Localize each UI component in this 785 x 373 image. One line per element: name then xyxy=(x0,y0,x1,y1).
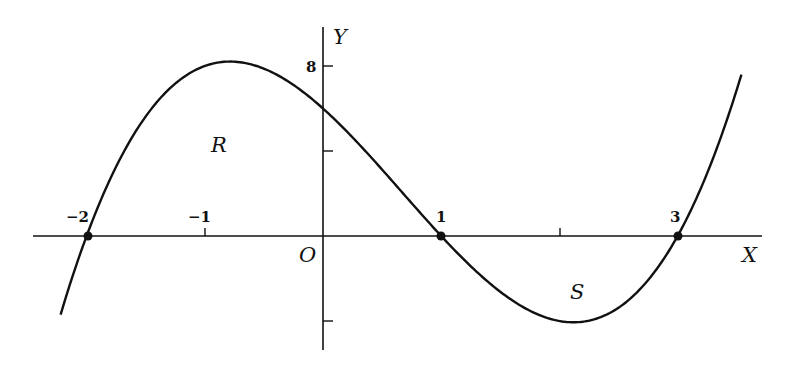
x-tick-label-1: 1 xyxy=(436,208,446,226)
x-tick-label-3: 3 xyxy=(670,208,680,226)
cubic-curve xyxy=(61,62,742,323)
region-label-s: S xyxy=(570,280,584,304)
region-label-r: R xyxy=(210,133,227,157)
cubic-graph: −2 −1 1 3 8 Y X O R S xyxy=(0,0,785,373)
origin-label: O xyxy=(299,243,316,267)
root-point-neg2 xyxy=(84,232,93,241)
x-tick-label-neg1: −1 xyxy=(188,208,211,226)
x-tick-label-neg2: −2 xyxy=(66,208,89,226)
root-point-3 xyxy=(674,232,683,241)
y-tick-label-8: 8 xyxy=(306,58,316,76)
root-point-1 xyxy=(437,232,446,241)
y-axis-label: Y xyxy=(333,25,349,49)
x-axis-label: X xyxy=(740,243,758,267)
